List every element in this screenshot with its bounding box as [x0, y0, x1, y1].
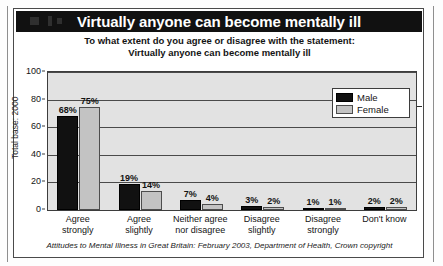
scan-artifact-icon	[30, 17, 39, 25]
bar-male-2	[180, 200, 201, 210]
y-axis-tick-mark	[42, 126, 45, 127]
gridline	[48, 72, 416, 73]
x-axis-tick-label: Disagreestrongly	[305, 214, 341, 236]
bar-male-0	[57, 116, 78, 210]
source-note: Attitudes to Mental Illness in Great Bri…	[14, 241, 425, 250]
y-axis-right-tick	[417, 106, 422, 107]
page-edge-line-right	[433, 6, 434, 262]
x-axis-tick-label-line: Disagree	[244, 214, 280, 225]
bar-value-label: 19%	[120, 173, 138, 183]
x-axis-tick-label-line: strongly	[62, 225, 94, 236]
y-axis-tick-label: 60	[31, 121, 41, 131]
page-edge-line-left	[7, 6, 8, 262]
legend-label-female: Female	[357, 104, 389, 115]
y-axis-tick-mark	[42, 98, 45, 99]
x-axis-tick-label: Neither agreenor disagree	[173, 214, 228, 236]
x-axis-tick-label: Disagreeslightly	[244, 214, 280, 236]
x-axis: AgreestronglyAgreeslightlyNeither agreen…	[47, 214, 417, 240]
bar-female-5	[386, 207, 407, 210]
bar-female-0	[79, 107, 100, 211]
bar-male-5	[364, 207, 385, 210]
bar-value-label: 2%	[390, 196, 403, 206]
bar-value-label: 1%	[306, 197, 319, 207]
y-axis-tick-label: 40	[31, 149, 41, 159]
bar-value-label: 4%	[206, 193, 219, 203]
x-axis-tick-label-line: Agree	[125, 214, 153, 225]
y-axis-tick-mark	[42, 71, 45, 72]
gridline	[48, 127, 416, 128]
legend-item-female: Female	[336, 103, 406, 115]
scan-artifact-icon	[48, 16, 52, 26]
chart-legend: Male Female	[332, 88, 410, 118]
chart-subtitle-line-2: Virtually anyone can become mentally ill	[14, 47, 425, 59]
y-axis-tick-mark	[42, 181, 45, 182]
y-axis-tick-mark	[42, 209, 45, 210]
y-axis-tick-label: 100	[26, 66, 41, 76]
y-axis-tick-label: 80	[31, 94, 41, 104]
legend-item-male: Male	[336, 91, 406, 103]
bar-male-1	[119, 184, 140, 210]
x-axis-tick-label: Agreeslightly	[125, 214, 153, 236]
bar-value-label: 1%	[328, 197, 341, 207]
x-axis-tick-label-line: nor disagree	[173, 225, 228, 236]
chart-card: Virtually anyone can become mentally ill…	[13, 8, 424, 258]
x-axis-tick-label-line: Neither agree	[173, 214, 228, 225]
bar-female-1	[141, 191, 162, 210]
x-axis-tick-label-line: Agree	[62, 214, 94, 225]
bar-female-3	[263, 207, 284, 210]
chart-title-bar: Virtually anyone can become mentally ill	[16, 11, 422, 32]
x-axis-tick-label-line: slightly	[125, 225, 153, 236]
gridline	[48, 182, 416, 183]
x-axis-tick-label: Don't know	[362, 214, 406, 225]
y-axis-tick-label: 20	[31, 176, 41, 186]
y-axis-tick-mark	[42, 153, 45, 154]
bar-value-label: 7%	[184, 189, 197, 199]
x-axis-tick-label: Agreestrongly	[62, 214, 94, 236]
legend-label-male: Male	[357, 92, 378, 103]
bar-value-label: 68%	[59, 105, 77, 115]
bar-value-label: 2%	[267, 196, 280, 206]
scan-frame: Virtually anyone can become mentally ill…	[0, 0, 443, 266]
bar-value-label: 3%	[245, 195, 258, 205]
x-axis-tick-label-line: slightly	[244, 225, 280, 236]
page-title: Virtually anyone can become mentally ill	[77, 13, 361, 30]
x-axis-tick-label-line: Don't know	[362, 214, 406, 225]
bar-male-3	[241, 206, 262, 210]
legend-swatch-male-icon	[336, 93, 353, 102]
gridline	[48, 155, 416, 156]
x-axis-tick-label-line: Disagree	[305, 214, 341, 225]
chart-subtitle: To what extent do you agree or disagree …	[14, 35, 425, 58]
bar-value-label: 75%	[81, 96, 99, 106]
bar-male-4	[303, 208, 324, 210]
total-base-label: Total base: 2000	[10, 97, 20, 159]
bar-value-label: 14%	[142, 180, 160, 190]
y-axis-tick-label: 0	[36, 204, 41, 214]
x-axis-tick-label-line: strongly	[305, 225, 341, 236]
bar-female-2	[202, 204, 223, 210]
bar-value-label: 2%	[368, 196, 381, 206]
chart-subtitle-line-1: To what extent do you agree or disagree …	[14, 35, 425, 47]
legend-swatch-female-icon	[336, 105, 353, 114]
scan-artifact-icon	[57, 18, 62, 24]
bar-female-4	[325, 208, 346, 210]
